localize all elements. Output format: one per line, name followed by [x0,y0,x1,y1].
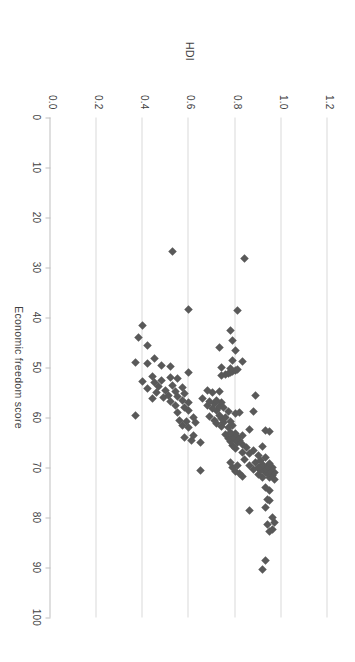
x-tick-mark [45,417,50,418]
x-tick-label: 100 [30,597,41,637]
x-axis-title: Economic freedom score [12,117,24,617]
gridline-hdi [280,117,281,617]
scatter-plot-area: 0.00.20.40.60.81.01.20102030405060708090… [0,0,355,662]
data-point [244,505,252,513]
y-tick-label: 0.8 [231,69,242,109]
y-tick-label: 0.4 [138,69,149,109]
data-point [157,360,165,368]
x-tick-label: 70 [30,447,41,487]
data-point [249,406,257,414]
x-tick-mark [45,467,50,468]
y-tick-label: 0.2 [92,69,103,109]
data-point [131,410,139,418]
data-point [150,354,158,362]
x-tick-label: 60 [30,397,41,437]
y-tick-label: 1.0 [277,69,288,109]
data-point [138,377,146,385]
rotated-figure-frame: 0.00.20.40.60.81.01.20102030405060708090… [0,0,355,662]
data-point [226,325,234,333]
x-tick-mark [45,317,50,318]
y-axis-title: HDI [184,21,196,81]
data-point [230,345,238,353]
x-tick-mark [45,117,50,118]
data-point [143,340,151,348]
data-point [184,368,192,376]
x-tick-mark [45,267,50,268]
gridline-hdi [95,117,96,617]
data-point [143,384,151,392]
data-point [260,503,268,511]
data-point [133,333,141,341]
data-point [196,465,204,473]
data-point [184,304,192,312]
data-point [131,358,139,366]
x-tick-mark [45,567,50,568]
data-point [240,254,248,262]
data-point [267,512,275,520]
data-point [228,355,236,363]
data-point [143,359,151,367]
data-point [214,387,222,395]
x-tick-label: 90 [30,547,41,587]
gridline-hdi [326,117,327,617]
data-point [168,247,176,255]
x-tick-label: 80 [30,497,41,537]
x-tick-label: 40 [30,297,41,337]
x-tick-mark [45,617,50,618]
gridline-hdi [141,117,142,617]
data-point [258,442,266,450]
data-point [214,343,222,351]
data-point [237,357,245,365]
data-point [260,425,268,433]
x-tick-label: 10 [30,147,41,187]
data-point [196,438,204,446]
y-tick-label: 1.2 [323,69,334,109]
x-tick-mark [45,517,50,518]
data-point [228,335,236,343]
data-point [166,373,174,381]
x-tick-mark [45,217,50,218]
data-point [138,320,146,328]
x-tick-mark [45,367,50,368]
x-tick-label: 0 [30,97,41,137]
x-tick-label: 50 [30,347,41,387]
y-tick-label: 0.0 [46,69,57,109]
x-tick-label: 30 [30,247,41,287]
data-point [251,390,259,398]
data-point [244,424,252,432]
x-tick-label: 20 [30,197,41,237]
x-tick-mark [45,167,50,168]
chart-canvas: 0.00.20.40.60.81.01.20102030405060708090… [0,0,355,662]
data-point [258,564,266,572]
data-point [166,362,174,370]
data-point [260,555,268,563]
